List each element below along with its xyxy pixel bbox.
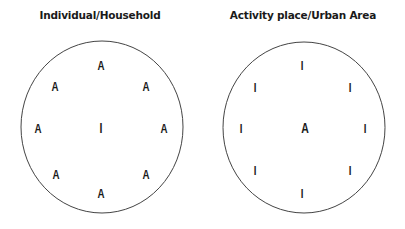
ring-label-bottom: A xyxy=(97,187,104,201)
ring-label-lower-left: A xyxy=(52,168,59,182)
ring-label-left: I xyxy=(240,122,243,136)
ring-label-top: A xyxy=(97,59,104,73)
center-label: I xyxy=(100,121,103,137)
ring-label-upper-left: I xyxy=(254,81,257,95)
diagram-canvas: A A A A A A A A I I I I I I I I I A xyxy=(0,0,405,229)
ring-label-left: A xyxy=(34,122,41,136)
ring-label-right: A xyxy=(160,122,167,136)
ring-label-upper-left: A xyxy=(51,80,58,94)
panel-activity-place-urban-area: I I I I I I I I A xyxy=(223,42,385,213)
ring-label-lower-left: I xyxy=(254,164,257,178)
ring-label-top: I xyxy=(301,59,304,73)
ring-label-lower-right: A xyxy=(142,168,149,182)
ring-label-bottom: I xyxy=(301,187,304,201)
center-label: A xyxy=(301,121,309,137)
ring-label-upper-right: I xyxy=(349,81,352,95)
ring-label-right: I xyxy=(364,122,367,136)
ring-label-upper-right: A xyxy=(142,80,149,94)
ring-label-lower-right: I xyxy=(349,164,352,178)
panel-individual-household: A A A A A A A A I xyxy=(21,41,183,213)
